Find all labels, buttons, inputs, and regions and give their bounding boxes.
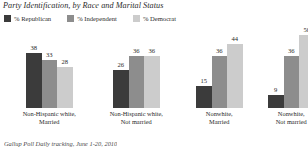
bar-value-label: 50 xyxy=(303,27,308,34)
bar-item[interactable]: 28 xyxy=(57,28,73,108)
legend-swatch-independent xyxy=(67,15,74,22)
bar-group: 153644 xyxy=(196,28,243,108)
legend-swatch-democrat xyxy=(133,15,140,22)
bar[interactable] xyxy=(196,86,212,108)
legend-swatch-republican xyxy=(4,15,11,22)
x-axis-label-line: Married xyxy=(4,118,94,126)
chart-title: Party Identification, by Race and Marita… xyxy=(3,1,163,10)
bar[interactable] xyxy=(113,70,129,108)
bar-item[interactable]: 36 xyxy=(284,28,300,108)
x-axis-label-line: Not married xyxy=(246,118,308,126)
bar[interactable] xyxy=(212,56,228,108)
bar[interactable] xyxy=(57,67,73,108)
bar-value-label: 44 xyxy=(231,36,238,43)
x-axis-category-label: Nonwhite,Not married xyxy=(246,110,308,126)
bar-item[interactable]: 9 xyxy=(268,28,284,108)
legend-item-republican[interactable]: % Republican xyxy=(4,15,51,22)
bar-value-label: 36 xyxy=(216,48,223,55)
chart-x-axis-labels: Non-Hispanic white,MarriedNon-Hispanic w… xyxy=(0,110,308,132)
chart-container: Party Identification, by Race and Marita… xyxy=(0,0,308,149)
legend-label-democrat: % Democrat xyxy=(143,15,176,22)
x-axis-label-line: Nonwhite, xyxy=(246,110,308,118)
bar[interactable] xyxy=(284,56,300,108)
bar-value-label: 36 xyxy=(148,48,155,55)
bar-group: 383328 xyxy=(26,28,73,108)
bar-value-label: 28 xyxy=(61,59,68,66)
bar-group-bars: 153644 xyxy=(196,28,243,108)
bar-value-label: 26 xyxy=(117,62,124,69)
bar[interactable] xyxy=(129,56,145,108)
bar-group: 263636 xyxy=(113,28,160,108)
bar-item[interactable]: 15 xyxy=(196,28,212,108)
chart-source-note: Gallup Poll Daily tracking, June 1-20, 2… xyxy=(4,140,117,149)
bar-value-label: 36 xyxy=(133,48,140,55)
bar[interactable] xyxy=(268,95,284,108)
bar-item[interactable]: 50 xyxy=(299,28,308,108)
bar-item[interactable]: 36 xyxy=(212,28,228,108)
bar-value-label: 15 xyxy=(200,78,207,85)
bar-item[interactable]: 36 xyxy=(144,28,160,108)
bar[interactable] xyxy=(26,53,42,108)
bar-value-label: 33 xyxy=(46,52,53,59)
legend-item-democrat[interactable]: % Democrat xyxy=(133,15,176,22)
x-axis-category-label: Non-Hispanic white,Married xyxy=(4,110,94,126)
legend-label-independent: % Independent xyxy=(77,15,117,22)
bar-item[interactable]: 36 xyxy=(129,28,145,108)
chart-legend: % Republican % Independent % Democrat xyxy=(4,15,192,22)
bar-item[interactable]: 38 xyxy=(26,28,42,108)
bar[interactable] xyxy=(227,44,243,108)
x-axis-label-line: Non-Hispanic white, xyxy=(4,110,94,118)
bar-group-bars: 263636 xyxy=(113,28,160,108)
x-axis-label-line: Non-Hispanic white, xyxy=(91,110,181,118)
bar[interactable] xyxy=(144,56,160,108)
bar-value-label: 9 xyxy=(274,87,277,94)
x-axis-label-line: Not married xyxy=(91,118,181,126)
chart-plot-area: 38332826363615364493650 xyxy=(0,28,308,108)
bar-item[interactable]: 33 xyxy=(42,28,58,108)
bar-value-label: 36 xyxy=(288,48,295,55)
bar-value-label: 38 xyxy=(30,45,37,52)
x-axis-category-label: Non-Hispanic white,Not married xyxy=(91,110,181,126)
bar-group-bars: 383328 xyxy=(26,28,73,108)
legend-item-independent[interactable]: % Independent xyxy=(67,15,117,22)
legend-label-republican: % Republican xyxy=(14,15,51,22)
bar-item[interactable]: 44 xyxy=(227,28,243,108)
bar[interactable] xyxy=(299,35,308,108)
bar-group-bars: 93650 xyxy=(268,28,308,108)
bar-item[interactable]: 26 xyxy=(113,28,129,108)
bar[interactable] xyxy=(42,60,58,108)
bar-group: 93650 xyxy=(268,28,308,108)
